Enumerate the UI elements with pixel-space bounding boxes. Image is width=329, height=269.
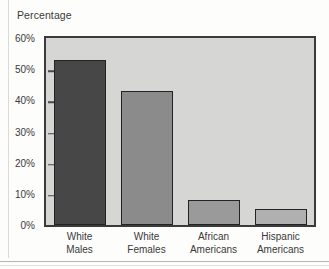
y-axis: 0%10%20%30%40%50%60%: [0, 36, 40, 227]
bar-fill: [256, 210, 306, 224]
x-tick-label: AfricanAmericans: [180, 231, 247, 256]
y-tick-label: 30%: [15, 126, 35, 137]
x-tick-label-line: Americans: [180, 244, 247, 257]
x-tick-label: WhiteFemales: [113, 231, 180, 256]
x-tick-label-line: Females: [113, 244, 180, 257]
y-tick-label: 20%: [15, 157, 35, 168]
y-tick-label: 10%: [15, 188, 35, 199]
scan-artifact-bottom-rule: [0, 261, 329, 262]
bar-series: [46, 38, 314, 225]
chart-title: Percentage: [17, 9, 72, 21]
x-tick-label: WhiteMales: [46, 231, 113, 256]
scan-artifact-bottom-rule-secondary: [0, 265, 329, 266]
y-tick-label: 40%: [15, 95, 35, 106]
y-tick-label: 60%: [15, 33, 35, 44]
x-axis: WhiteMalesWhiteFemalesAfricanAmericansHi…: [44, 231, 316, 265]
x-tick-label-line: White: [113, 231, 180, 244]
bar: [121, 91, 173, 225]
bar: [188, 200, 240, 225]
x-tick-label: HispanicAmericans: [247, 231, 314, 256]
bar: [255, 209, 307, 225]
x-tick-label-line: Males: [46, 244, 113, 257]
bar-fill: [189, 201, 239, 224]
y-tick-label: 0%: [21, 220, 35, 231]
x-tick-label-line: Hispanic: [247, 231, 314, 244]
x-tick-label-line: African: [180, 231, 247, 244]
bar-fill: [122, 92, 172, 224]
x-tick-label-line: Americans: [247, 244, 314, 257]
x-tick-label-line: White: [46, 231, 113, 244]
bar-fill: [55, 61, 105, 224]
y-tick-label: 50%: [15, 64, 35, 75]
bar: [54, 60, 106, 225]
